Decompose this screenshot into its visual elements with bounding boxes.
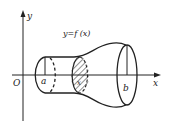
upper-curve: [45, 43, 126, 57]
curve-label: y=f (x): [62, 29, 90, 38]
y-axis-label: y: [26, 11, 33, 21]
section-x-label: x: [77, 79, 81, 87]
bound-b-label: b: [123, 83, 129, 93]
solid-of-revolution-diagram: y x O a b x y=f (x): [0, 0, 170, 135]
x-axis-label: x: [153, 78, 158, 88]
y-axis-arrow-icon: [21, 10, 26, 17]
lower-curve: [45, 93, 126, 107]
y-axis: [21, 10, 26, 121]
origin-label: O: [13, 78, 21, 88]
bound-a-label: a: [41, 76, 46, 86]
x-axis-arrow-icon: [154, 73, 161, 78]
